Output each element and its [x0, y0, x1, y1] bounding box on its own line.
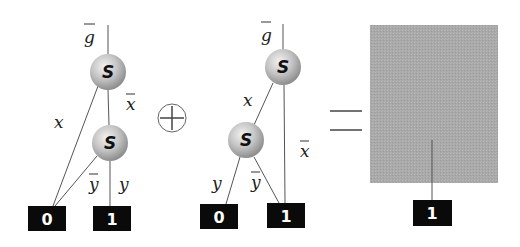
- left-bdd: g x x y y S S 0 1: [28, 24, 136, 231]
- right-node-2-label: S: [240, 130, 252, 150]
- svg-text:y: y: [250, 172, 261, 192]
- bdd-apply-diagram: g x x y y S S 0 1: [0, 0, 520, 247]
- right-label-x: x: [243, 90, 253, 110]
- left-label-y: y: [118, 174, 129, 194]
- left-terminal-0-label: 0: [41, 210, 52, 229]
- right-terminal-0-label: 0: [213, 208, 224, 227]
- result: 1: [370, 25, 498, 226]
- left-node-1-label: S: [102, 62, 114, 82]
- right-edge-m1-u1: [284, 85, 285, 203]
- left-root-label-text: g: [84, 27, 95, 47]
- left-root-label: g: [84, 24, 95, 47]
- result-region: [370, 25, 498, 183]
- left-terminal-1-label: 1: [106, 210, 117, 229]
- right-label-xbar: x: [300, 141, 310, 161]
- right-edge-m1-m2: [254, 83, 273, 125]
- left-edge-n1-n2: [108, 90, 109, 125]
- right-root-label-text: g: [261, 25, 272, 45]
- left-label-ybar: y: [88, 174, 99, 194]
- oplus-operator-icon: [158, 104, 186, 132]
- left-label-xbar: x: [126, 94, 136, 114]
- left-node-2: S: [92, 125, 128, 161]
- left-node-1: S: [90, 54, 126, 90]
- right-node-1: S: [265, 49, 301, 85]
- right-terminal-1: 1: [267, 203, 305, 228]
- right-label-ybar: y: [250, 172, 261, 192]
- right-root-label: g: [261, 22, 272, 45]
- left-terminal-0: 0: [28, 206, 66, 231]
- right-bdd: g x x y y S S 0 1: [200, 22, 310, 229]
- right-label-y: y: [211, 173, 222, 193]
- result-terminal-1: 1: [413, 200, 452, 226]
- right-node-1-label: S: [277, 57, 289, 77]
- svg-text:x: x: [300, 141, 310, 161]
- svg-text:x: x: [126, 94, 136, 114]
- result-terminal-1-label: 1: [426, 204, 437, 223]
- right-terminal-1-label: 1: [280, 207, 291, 226]
- equals-icon: [330, 111, 362, 130]
- right-edge-m2-u0: [226, 157, 240, 204]
- right-node-2: S: [228, 122, 264, 158]
- right-terminal-0: 0: [200, 204, 238, 229]
- svg-text:y: y: [88, 174, 99, 194]
- left-node-2-label: S: [104, 133, 116, 153]
- left-label-x: x: [54, 112, 64, 132]
- left-terminal-1: 1: [93, 206, 131, 231]
